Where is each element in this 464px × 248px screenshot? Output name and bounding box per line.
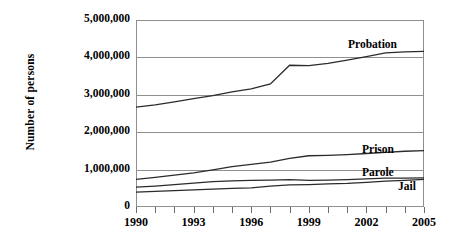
x-axis-tick — [270, 207, 271, 213]
x-axis-tick — [290, 207, 291, 213]
x-axis-tick — [309, 207, 310, 213]
x-axis-tick-label: 1993 — [182, 215, 206, 230]
x-axis-tick-label: 1999 — [297, 215, 321, 230]
series-line-probation — [136, 51, 424, 107]
x-axis-tick-label: 1996 — [239, 215, 263, 230]
series-line-jail — [136, 179, 424, 192]
x-axis-tick — [366, 207, 367, 213]
x-axis-tick — [424, 207, 425, 213]
x-axis-tick-label: 1990 — [124, 215, 148, 230]
line-chart: Number of persons 01,000,0002,000,0003,0… — [0, 0, 464, 248]
y-axis-tick-label: 3,000,000 — [6, 87, 130, 99]
y-axis-tick-label: 4,000,000 — [6, 49, 130, 61]
x-axis-tick-label: 2005 — [412, 215, 436, 230]
x-axis-tick — [405, 207, 406, 213]
series-label-prison: Prison — [362, 143, 394, 155]
y-axis-tick-label: 2,000,000 — [6, 124, 130, 136]
y-axis-tick-label: 5,000,000 — [6, 12, 130, 24]
x-axis-tick — [174, 207, 175, 213]
x-axis-tick — [136, 207, 137, 213]
series-label-probation: Probation — [348, 38, 397, 50]
x-axis-tick-label: 2002 — [354, 215, 378, 230]
x-axis-tick — [194, 207, 195, 213]
y-axis-tick-label: 1,000,000 — [6, 162, 130, 174]
y-axis-tick-label: 0 — [6, 199, 130, 211]
x-axis-tick — [386, 207, 387, 213]
x-axis-tick — [232, 207, 233, 213]
x-axis-tick — [213, 207, 214, 213]
x-axis-tick — [328, 207, 329, 213]
x-axis-ticks — [136, 207, 424, 214]
x-axis-tick — [347, 207, 348, 213]
x-axis-tick-labels: 199019931996199920022005 — [0, 215, 464, 235]
series-label-parole: Parole — [362, 166, 394, 178]
x-axis-tick — [155, 207, 156, 213]
series-label-jail: Jail — [398, 180, 416, 192]
x-axis-tick — [251, 207, 252, 213]
